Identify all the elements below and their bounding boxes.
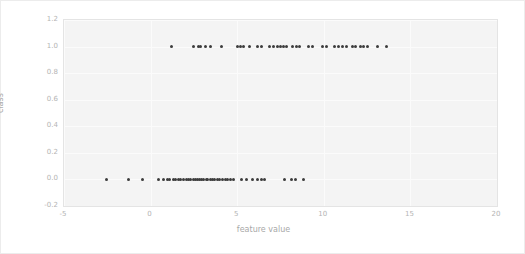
y-axis-label: class [0, 93, 5, 113]
scatter-point [256, 45, 259, 48]
scatter-point [298, 45, 301, 48]
scatter-point [307, 45, 310, 48]
figure-canvas: -0.20.00.20.40.60.81.01.2 -505101520 cla… [0, 0, 525, 254]
scatter-point [192, 45, 195, 48]
gridline-horizontal [64, 153, 497, 154]
scatter-point [268, 45, 271, 48]
y-tick-label: 1.0 [9, 42, 63, 50]
gridline-horizontal [64, 126, 497, 127]
scatter-point [127, 178, 130, 181]
scatter-point [337, 45, 340, 48]
scatter-point [168, 178, 171, 181]
scatter-point [256, 178, 259, 181]
scatter-point [345, 45, 348, 48]
scatter-point [157, 178, 160, 181]
y-tick-label: 0.2 [9, 148, 63, 156]
scatter-point [251, 178, 254, 181]
scatter-point [170, 45, 173, 48]
plot-area [63, 19, 498, 207]
scatter-point [162, 178, 165, 181]
x-tick-label: 5 [234, 210, 238, 218]
scatter-point [272, 45, 275, 48]
x-tick-label: -5 [60, 210, 67, 218]
x-axis-ticks: -505101520 [63, 210, 498, 224]
scatter-point [311, 45, 314, 48]
scatter-point [209, 45, 212, 48]
gridline-horizontal [64, 20, 497, 21]
scatter-point [354, 45, 357, 48]
scatter-point [242, 45, 245, 48]
scatter-point [333, 45, 336, 48]
y-tick-label: 0.0 [9, 174, 63, 182]
scatter-point [248, 45, 251, 48]
scatter-point [204, 45, 207, 48]
scatter-point [260, 45, 263, 48]
y-tick-label: 0.4 [9, 121, 63, 129]
gridline-vertical [410, 20, 411, 206]
scatter-point [245, 178, 248, 181]
scatter-point [302, 178, 305, 181]
scatter-point [294, 178, 297, 181]
scatter-point [220, 45, 223, 48]
x-axis-label: feature value [1, 225, 525, 234]
scatter-point [283, 178, 286, 181]
gridline-vertical [497, 20, 498, 206]
x-tick-label: 10 [318, 210, 327, 218]
gridline-vertical [324, 20, 325, 206]
scatter-point [199, 45, 202, 48]
scatter-point [321, 45, 324, 48]
x-tick-label: 0 [147, 210, 151, 218]
scatter-point [341, 45, 344, 48]
scatter-point [376, 45, 379, 48]
scatter-point [362, 45, 365, 48]
y-tick-label: -0.2 [9, 201, 63, 209]
gridline-horizontal [64, 73, 497, 74]
y-tick-label: 0.6 [9, 95, 63, 103]
scatter-point [141, 178, 144, 181]
y-tick-label: 0.8 [9, 68, 63, 76]
x-tick-label: 20 [492, 210, 501, 218]
scatter-point [291, 45, 294, 48]
scatter-point [240, 178, 243, 181]
x-tick-label: 15 [405, 210, 414, 218]
scatter-point [290, 178, 293, 181]
y-tick-label: 1.2 [9, 15, 63, 23]
scatter-point [263, 178, 266, 181]
scatter-point [105, 178, 108, 181]
gridline-horizontal [64, 206, 497, 207]
scatter-point [385, 45, 388, 48]
gridline-vertical [64, 20, 65, 206]
gridline-horizontal [64, 100, 497, 101]
scatter-point [285, 45, 288, 48]
y-axis-ticks: -0.20.00.20.40.60.81.01.2 [1, 19, 63, 207]
scatter-point [325, 45, 328, 48]
gridline-vertical [151, 20, 152, 206]
scatter-point [232, 178, 235, 181]
